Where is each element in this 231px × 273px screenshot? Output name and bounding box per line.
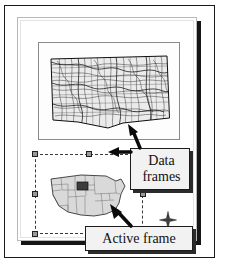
selection-handle-middle-left[interactable] (32, 191, 38, 197)
data-frames-callout[interactable]: Data frames (130, 148, 190, 190)
active-frame-callout-label: Active frame (102, 231, 175, 247)
active-frame-callout[interactable]: Active frame (85, 226, 193, 251)
layout-page-sheet[interactable] (17, 17, 197, 241)
selection-handle-top-middle[interactable] (86, 151, 92, 157)
data-frames-callout-line1: Data (148, 153, 174, 169)
overview-data-frame[interactable] (35, 154, 143, 234)
highlight-extent-box (77, 182, 88, 190)
selection-handle-top-left[interactable] (32, 151, 38, 157)
united-states-map (46, 164, 132, 224)
data-frames-callout-line2: frames (142, 169, 180, 185)
south-dakota-map (48, 52, 172, 132)
selection-handle-bottom-left[interactable] (32, 231, 38, 237)
detail-data-frame[interactable] (38, 42, 180, 140)
